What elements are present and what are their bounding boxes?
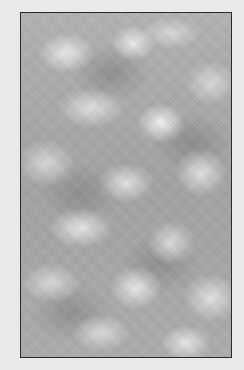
cloud-texture-frame [20, 12, 232, 358]
texture-grain [21, 13, 231, 357]
